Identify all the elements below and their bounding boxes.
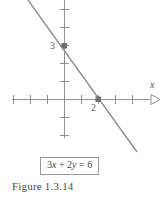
figure-container: 3 2 x 3x + 2y = 6 Figure 1.3.14 (0, 0, 167, 198)
equation-variable-y: y (72, 159, 76, 170)
equation-equals-sign: = (79, 159, 85, 170)
x-axis-label: x (150, 80, 154, 90)
x-axis-arrowhead-icon (151, 95, 160, 105)
equation-plus-sign: + (59, 159, 65, 170)
y-intercept-label: 3 (50, 41, 55, 51)
plot-svg (0, 0, 167, 160)
x-intercept-label: 2 (91, 103, 96, 113)
equation-variable-x: x (52, 159, 56, 170)
equation-box: 3x + 2y = 6 (40, 157, 99, 175)
equation-constant: 6 (87, 159, 92, 170)
equation-line (28, 0, 137, 152)
y-intercept-marker (62, 43, 68, 49)
coordinate-plot: 3 2 x (0, 0, 167, 160)
figure-caption: Figure 1.3.14 (12, 180, 74, 192)
x-intercept-marker (96, 97, 102, 103)
